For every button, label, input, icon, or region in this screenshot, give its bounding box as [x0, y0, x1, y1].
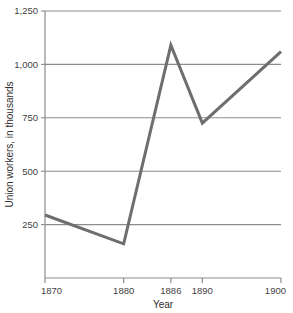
y-tick-label-750: 750 — [22, 112, 38, 123]
chart-background — [0, 0, 293, 313]
x-axis-title: Year — [153, 299, 174, 310]
y-tick-label-250: 250 — [22, 219, 38, 230]
line-chart: 2505007501,0001,25018701880188618901900Y… — [0, 0, 293, 313]
y-tick-label-1000: 1,000 — [14, 59, 38, 70]
y-tick-label-500: 500 — [22, 166, 38, 177]
y-axis-title: Union workers, in thousands — [4, 81, 15, 207]
x-tick-label-1870: 1870 — [41, 285, 62, 296]
x-tick-label-1900: 1900 — [265, 285, 286, 296]
x-tick-label-1886: 1886 — [160, 285, 181, 296]
x-tick-label-1880: 1880 — [113, 285, 134, 296]
y-tick-label-1250: 1,250 — [14, 5, 38, 16]
chart-canvas: 2505007501,0001,25018701880188618901900Y… — [0, 0, 293, 313]
x-tick-label-1890: 1890 — [192, 285, 213, 296]
